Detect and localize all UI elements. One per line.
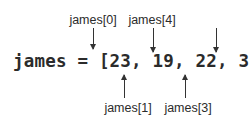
label-index-2: james[4] (128, 13, 175, 27)
label-index-3: james[3] (164, 101, 211, 115)
arrow-up-icon (124, 75, 125, 98)
arrow-down-icon (216, 28, 217, 52)
label-index-1: james[1] (104, 101, 151, 115)
code-line: james = [23, 19, 22, 31, 18] (13, 51, 250, 71)
arrow-up-icon (185, 75, 186, 98)
arrow-down-icon (153, 28, 154, 52)
arrow-down-icon (93, 28, 94, 49)
label-index-0: james[0] (69, 13, 116, 27)
